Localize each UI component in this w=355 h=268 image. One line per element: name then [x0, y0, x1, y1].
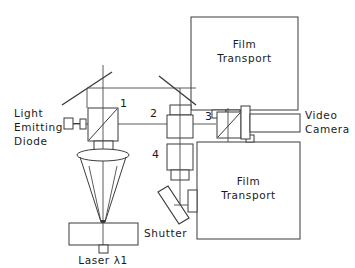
video-camera-label-line2: Camera: [305, 123, 350, 135]
film-transport-top-label-line1: Film: [233, 38, 257, 50]
objective-lens-ellipse: [77, 149, 129, 161]
optical-system-diagram: Film Transport Film Transport Light Emit…: [0, 0, 355, 268]
film-gate-bottom-left-stub: [188, 190, 197, 212]
component-number-4: 4: [152, 148, 159, 161]
video-camera-label-line1: Video: [305, 109, 337, 121]
led-label-line2: Emitting: [14, 121, 63, 133]
laser-label: Laser λ1: [78, 254, 128, 266]
component-number-2: 2: [150, 107, 157, 120]
video-camera-body: [250, 114, 300, 132]
shutter-label: Shutter: [144, 227, 187, 239]
steering-mirror-right-surface: [159, 76, 196, 105]
cone-beam-inner-left: [89, 166, 101, 222]
led-label-line1: Light: [14, 107, 43, 119]
film-transport-bottom-label-line2: Transport: [220, 189, 276, 201]
component-number-3: 3: [205, 110, 212, 123]
component-number-1: 1: [120, 97, 127, 110]
cone-beam-right-edge: [105, 157, 126, 222]
lens-barrel-2-top-ring: [170, 105, 191, 115]
laser-aperture: [99, 245, 108, 253]
film-transport-bottom-label-line1: Film: [237, 175, 261, 187]
cone-beam-left-edge: [80, 157, 101, 222]
led-label-line3: Diode: [14, 135, 48, 147]
shutter-body: [69, 223, 138, 245]
light-emitting-diode-body: [64, 118, 73, 129]
led-mount-collar: [80, 119, 86, 129]
cone-beam-inner-right: [105, 166, 117, 222]
diagram-canvas: Film Transport Film Transport Light Emit…: [0, 0, 355, 268]
film-transport-top-label-line2: Transport: [216, 52, 272, 64]
video-camera-mount-flange: [241, 106, 250, 139]
